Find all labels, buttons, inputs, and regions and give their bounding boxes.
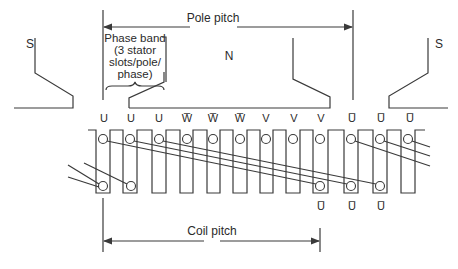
pole-right-label: S — [435, 37, 443, 51]
slot-labels-bottom: U̅ U̅ U̅ — [317, 200, 385, 212]
slot-label: V — [290, 112, 298, 124]
slot-label: U̅ — [348, 112, 356, 124]
pole-n: N — [73, 38, 330, 108]
phase-band-line-4: phase) — [117, 68, 152, 80]
coil-pitch-label: Coil pitch — [187, 224, 236, 238]
slot-label: U̅ — [377, 200, 385, 212]
slot-label: U̅ — [406, 112, 414, 124]
pole-left-s: S — [14, 37, 73, 108]
phase-band-annotation: Phase band (3 stator slots/pole/ phase) — [104, 32, 166, 90]
slot-label: W̅ — [182, 112, 193, 124]
pole-left-label: S — [26, 37, 34, 51]
phase-band-line-3: slots/pole/ — [109, 56, 162, 68]
phase-band-line-1: Phase band — [104, 32, 165, 44]
slot-label: U — [100, 112, 108, 124]
pole-center-label: N — [225, 49, 234, 63]
slot-labels-top: U U U W̅ W̅ W̅ V V V U̅ U̅ U̅ — [100, 112, 414, 124]
pole-right-s: S — [389, 37, 448, 108]
winding-diagram: Pole pitch S N S Phase band (3 stator sl… — [0, 0, 458, 269]
slot-label: U — [155, 112, 163, 124]
slot-label: W̅ — [235, 112, 246, 124]
slot-label: U̅ — [317, 200, 325, 212]
slot-label: U — [127, 112, 135, 124]
phase-band-line-2: (3 stator — [114, 44, 156, 56]
conductors-top — [99, 135, 413, 144]
slot-label: U̅ — [377, 112, 385, 124]
slot-label: V — [262, 112, 270, 124]
phase-band-brace — [106, 82, 164, 90]
coil-pitch-dimension: Coil pitch — [103, 198, 320, 252]
pole-pitch-label: Pole pitch — [187, 11, 240, 25]
slot-label: U̅ — [348, 200, 356, 212]
slot-label: W̅ — [208, 112, 219, 124]
slot-label: V — [317, 112, 325, 124]
coil-connections — [68, 141, 430, 187]
